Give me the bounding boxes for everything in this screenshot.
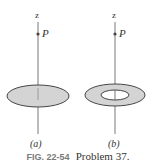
panel-label-a: (a) [30,139,42,149]
caption-text: Problem 37. [76,150,130,162]
point-p-label-b: P [119,28,126,39]
figure-number: FIG. 22-54 [27,152,70,162]
point-p-label-a: P [42,28,49,39]
z-axis-label-b: z [112,11,116,20]
figure-diagram [0,0,156,166]
point-p-dot-b [113,32,116,35]
point-p-dot-a [36,32,39,35]
panel-label-b: (b) [108,139,120,149]
panel-b-ring-diagram [85,22,145,134]
figure-caption: FIG. 22-54Problem 37. [0,150,156,162]
panel-a-disk-diagram [7,22,69,134]
z-axis-label-a: z [35,11,39,20]
